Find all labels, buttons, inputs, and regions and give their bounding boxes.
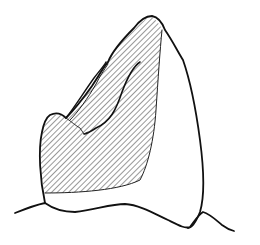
- hatched-face: [41, 17, 162, 193]
- illustration-canvas: Line drawing of a tooth-like object with…: [0, 0, 260, 245]
- tooth-drawing: [0, 0, 260, 245]
